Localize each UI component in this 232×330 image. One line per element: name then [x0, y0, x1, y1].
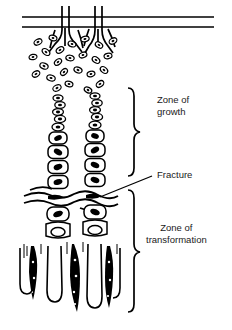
- growth-plate-fracture-diagram: [0, 0, 232, 330]
- label-fracture: Fracture: [157, 169, 192, 181]
- label-zone-of-transformation-line1: Zone of: [146, 222, 207, 234]
- label-zone-of-growth: Zone of growth: [157, 94, 189, 117]
- label-zone-of-transformation-line2: transformation: [146, 234, 207, 246]
- label-zone-of-transformation: Zone of transformation: [146, 222, 207, 245]
- label-zone-of-growth-line2: growth: [157, 106, 189, 118]
- label-zone-of-growth-line1: Zone of: [157, 94, 189, 106]
